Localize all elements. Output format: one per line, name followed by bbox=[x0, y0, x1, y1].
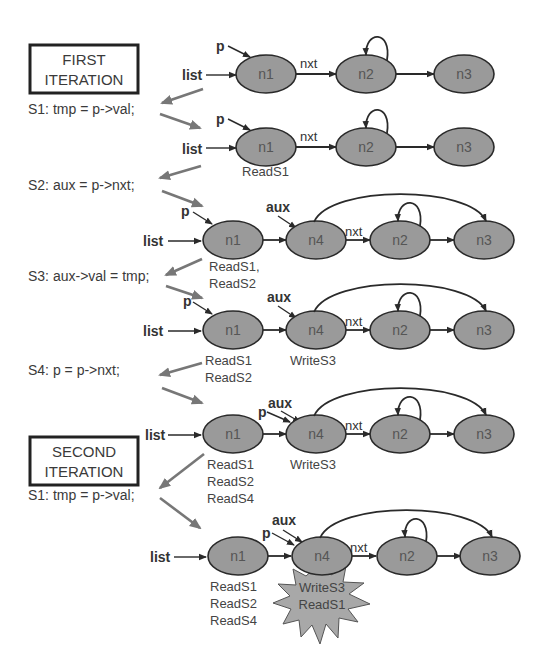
heap-state-row-6: list p aux n1 n4 nxt n2 n3 ReadS1 ReadS2… bbox=[150, 510, 520, 644]
conflict-annotation-read: ReadS1 bbox=[299, 597, 346, 612]
list-label: list bbox=[143, 323, 164, 339]
flow-arrow bbox=[166, 259, 202, 275]
svg-text:n2: n2 bbox=[358, 66, 374, 82]
heap-state-row-4: list p aux n1 n4 nxt n2 n3 ReadS1 ReadS2… bbox=[143, 284, 514, 385]
first-iteration-line1: FIRST bbox=[62, 51, 105, 68]
first-iteration-box: FIRST ITERATION bbox=[30, 45, 138, 93]
statement-s2: S2: aux = p->nxt; bbox=[28, 177, 135, 193]
svg-text:n1: n1 bbox=[258, 139, 274, 155]
svg-text:n2: n2 bbox=[358, 139, 374, 155]
svg-text:n2: n2 bbox=[392, 426, 408, 442]
flow-arrow bbox=[160, 454, 204, 488]
first-iteration-line2: ITERATION bbox=[45, 71, 124, 88]
svg-text:n4: n4 bbox=[314, 548, 330, 564]
n1-access-annotation: ReadS2 bbox=[205, 370, 252, 385]
nxt-label: nxt bbox=[345, 418, 363, 433]
nxt-label: nxt bbox=[300, 129, 318, 144]
aux-label: aux bbox=[268, 395, 292, 411]
flow-arrow bbox=[162, 89, 203, 103]
heap-state-row-3: list p aux n1 n4 nxt n2 n3 ReadS1, ReadS… bbox=[143, 194, 514, 291]
pointer-analysis-diagram: FIRST ITERATION S1: tmp = p->val; S2: au… bbox=[0, 0, 542, 655]
p-label: p bbox=[258, 404, 267, 420]
svg-text:n2: n2 bbox=[399, 548, 415, 564]
n4-access-annotation: WriteS3 bbox=[290, 457, 336, 472]
flow-arrow bbox=[162, 388, 202, 403]
n1-access-annotation: ReadS1, bbox=[209, 259, 260, 274]
heap-state-row-1: list p n1 nxt n2 n3 bbox=[182, 37, 494, 93]
n1-access-annotation: ReadS2 bbox=[207, 474, 254, 489]
svg-text:n1: n1 bbox=[230, 548, 246, 564]
svg-text:n3: n3 bbox=[476, 426, 492, 442]
n1-access-annotation: ReadS4 bbox=[207, 491, 254, 506]
p-label: p bbox=[216, 38, 225, 54]
nxt-label: nxt bbox=[350, 540, 368, 555]
svg-text:n1: n1 bbox=[258, 66, 274, 82]
nxt-label: nxt bbox=[345, 314, 363, 329]
flow-arrow bbox=[160, 498, 200, 528]
p-label: p bbox=[262, 525, 271, 541]
svg-text:n3: n3 bbox=[456, 66, 472, 82]
conflict-annotation-write: WriteS3 bbox=[299, 580, 345, 595]
n1-access-annotation: ReadS1 bbox=[210, 579, 257, 594]
n1-access-annotation: ReadS2 bbox=[210, 596, 257, 611]
p-label: p bbox=[183, 293, 192, 309]
n1-access-annotation: ReadS2 bbox=[209, 276, 256, 291]
n1-access-annotation: ReadS1 bbox=[242, 164, 289, 179]
list-label: list bbox=[145, 427, 166, 443]
p-label: p bbox=[216, 111, 225, 127]
svg-text:n3: n3 bbox=[476, 322, 492, 338]
svg-text:n4: n4 bbox=[308, 322, 324, 338]
heap-state-row-2: list p n1 nxt n2 n3 ReadS1 bbox=[182, 110, 494, 179]
statement-s1-second: S1: tmp = p->val; bbox=[28, 487, 135, 503]
statement-s4: S4: p = p->nxt; bbox=[28, 362, 120, 378]
flow-arrow bbox=[160, 363, 202, 375]
n1-access-annotation: ReadS1 bbox=[205, 353, 252, 368]
list-label: list bbox=[143, 233, 164, 249]
second-iteration-box: SECOND ITERATION bbox=[30, 437, 138, 485]
svg-text:n2: n2 bbox=[392, 232, 408, 248]
list-label: list bbox=[150, 549, 171, 565]
aux-label: aux bbox=[267, 289, 291, 305]
statement-s1: S1: tmp = p->val; bbox=[28, 101, 135, 117]
n1-access-annotation: ReadS4 bbox=[210, 613, 257, 628]
flow-arrow bbox=[160, 114, 200, 128]
svg-text:n3: n3 bbox=[476, 232, 492, 248]
p-label: p bbox=[181, 203, 190, 219]
svg-text:n1: n1 bbox=[225, 232, 241, 248]
svg-text:n2: n2 bbox=[392, 322, 408, 338]
svg-text:n4: n4 bbox=[308, 426, 324, 442]
flow-arrow bbox=[160, 166, 201, 178]
nxt-label: nxt bbox=[300, 56, 318, 71]
list-label: list bbox=[182, 67, 203, 83]
svg-text:n1: n1 bbox=[225, 322, 241, 338]
svg-text:n4: n4 bbox=[308, 232, 324, 248]
aux-label: aux bbox=[266, 199, 290, 215]
list-label: list bbox=[182, 141, 203, 157]
heap-state-row-5: list p aux n1 n4 nxt n2 n3 ReadS1 ReadS2… bbox=[145, 388, 514, 506]
svg-text:n3: n3 bbox=[456, 139, 472, 155]
n1-access-annotation: ReadS1 bbox=[207, 457, 254, 472]
statement-s3: S3: aux->val = tmp; bbox=[28, 268, 149, 284]
nxt-label: nxt bbox=[345, 224, 363, 239]
n4-access-annotation: WriteS3 bbox=[290, 353, 336, 368]
svg-text:n1: n1 bbox=[225, 426, 241, 442]
aux-label: aux bbox=[272, 512, 296, 528]
n4-to-n3-arc bbox=[320, 510, 492, 538]
second-iteration-line1: SECOND bbox=[52, 443, 116, 460]
svg-text:n3: n3 bbox=[482, 548, 498, 564]
second-iteration-line2: ITERATION bbox=[45, 463, 124, 480]
